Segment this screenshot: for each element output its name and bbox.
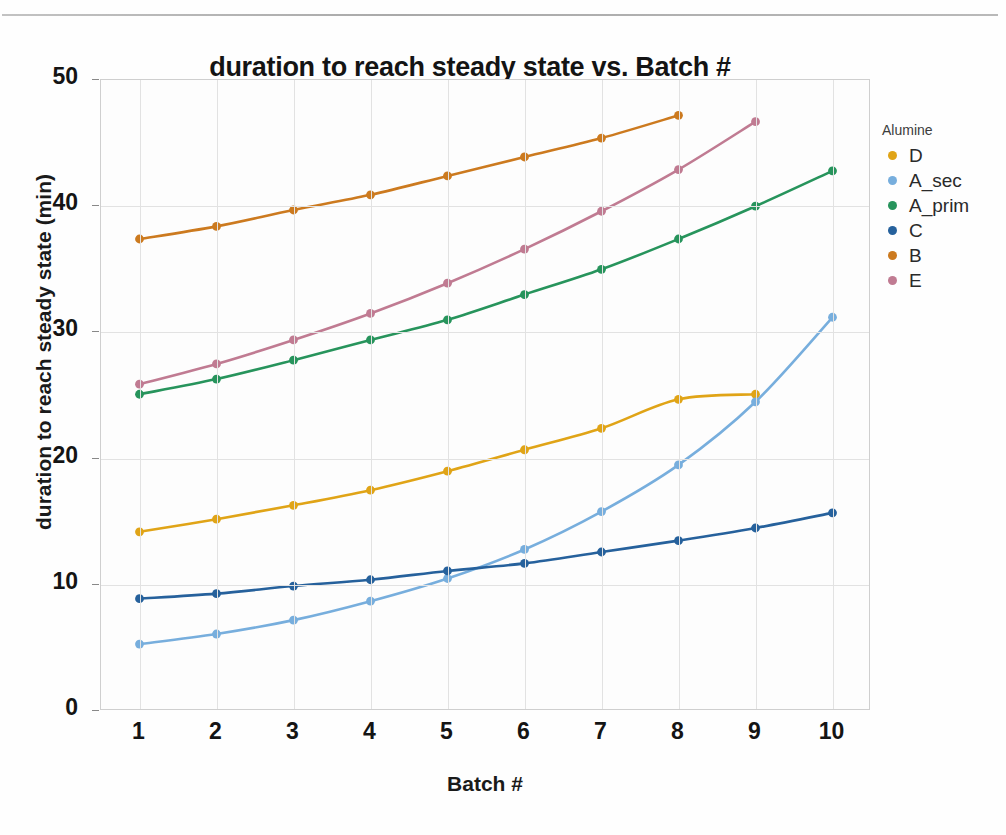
legend-item-b[interactable]: B xyxy=(882,243,1002,268)
legend-label: A_sec xyxy=(909,170,962,192)
legend-title: Alumine xyxy=(882,122,1002,138)
gridline-vertical xyxy=(756,80,757,709)
legend-swatch-icon xyxy=(888,151,897,160)
gridline-horizontal xyxy=(101,332,869,333)
x-tick-label: 10 xyxy=(807,718,857,745)
gridline-vertical xyxy=(679,80,680,709)
gridline-vertical xyxy=(833,80,834,709)
x-tick-label: 8 xyxy=(653,718,703,745)
series-line xyxy=(140,115,679,239)
gridline-horizontal xyxy=(101,459,869,460)
y-tick-mark xyxy=(92,584,99,585)
x-tick-label: 3 xyxy=(268,718,318,745)
gridline-horizontal xyxy=(101,585,869,586)
chart-figure: duration to reach steady state vs. Batch… xyxy=(0,22,1006,822)
legend-swatch-icon xyxy=(888,251,897,260)
gridline-vertical xyxy=(448,80,449,709)
gridline-vertical xyxy=(294,80,295,709)
legend-swatch-icon xyxy=(888,276,897,285)
legend-label: A_prim xyxy=(909,195,969,217)
gridline-vertical xyxy=(602,80,603,709)
series-line xyxy=(140,171,833,394)
legend-label: E xyxy=(909,270,922,292)
y-tick-mark xyxy=(92,710,99,711)
y-tick-mark xyxy=(92,458,99,459)
x-tick-label: 4 xyxy=(345,718,395,745)
y-axis-title: duration to reach steady state (min) xyxy=(32,72,56,632)
y-tick-mark xyxy=(92,205,99,206)
document-page: duration to reach steady state vs. Batch… xyxy=(0,0,1006,835)
series-a-prim xyxy=(135,166,837,398)
legend-label: D xyxy=(909,145,923,167)
legend-label: C xyxy=(909,220,923,242)
legend: Alumine DA_secA_primCBE xyxy=(882,122,1002,293)
series-line xyxy=(140,513,833,599)
legend-swatch-icon xyxy=(888,176,897,185)
x-tick-label: 6 xyxy=(499,718,549,745)
plot-area xyxy=(100,79,870,710)
y-tick-label: 0 xyxy=(34,694,78,721)
legend-label: B xyxy=(909,245,922,267)
x-tick-label: 2 xyxy=(191,718,241,745)
header-divider xyxy=(2,14,998,16)
y-tick-mark xyxy=(92,79,99,80)
legend-item-a-sec[interactable]: A_sec xyxy=(882,168,1002,193)
legend-item-a-prim[interactable]: A_prim xyxy=(882,193,1002,218)
x-axis-title: Batch # xyxy=(100,772,870,796)
legend-item-d[interactable]: D xyxy=(882,143,1002,168)
gridline-horizontal xyxy=(101,206,869,207)
series-a-sec xyxy=(135,313,837,649)
clipped-header-text xyxy=(440,0,560,10)
gridline-vertical xyxy=(217,80,218,709)
legend-items: DA_secA_primCBE xyxy=(882,143,1002,293)
legend-swatch-icon xyxy=(888,226,897,235)
gridline-vertical xyxy=(525,80,526,709)
x-tick-label: 9 xyxy=(730,718,780,745)
x-tick-label: 7 xyxy=(576,718,626,745)
series-line xyxy=(140,317,833,644)
x-tick-label: 1 xyxy=(114,718,164,745)
series-c xyxy=(135,508,837,603)
gridline-vertical xyxy=(140,80,141,709)
legend-item-c[interactable]: C xyxy=(882,218,1002,243)
y-tick-mark xyxy=(92,331,99,332)
legend-swatch-icon xyxy=(888,201,897,210)
legend-item-e[interactable]: E xyxy=(882,268,1002,293)
x-tick-label: 5 xyxy=(422,718,472,745)
gridline-vertical xyxy=(371,80,372,709)
